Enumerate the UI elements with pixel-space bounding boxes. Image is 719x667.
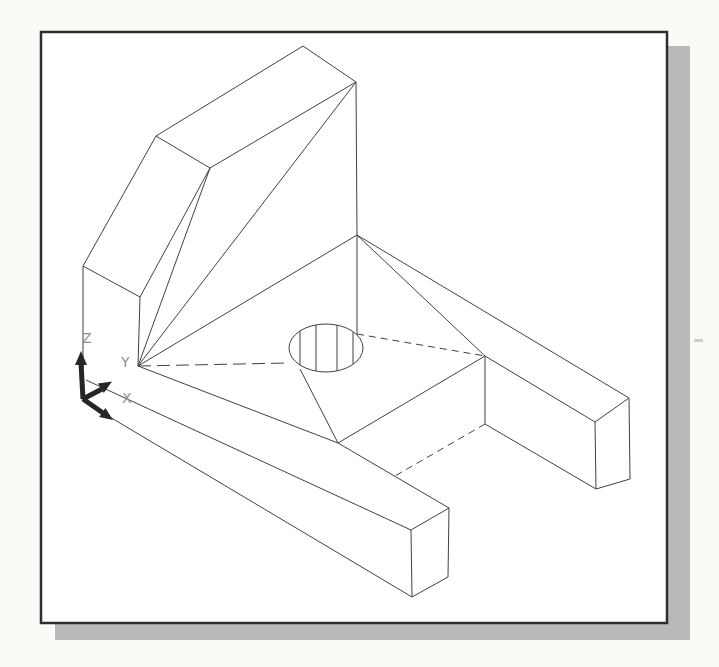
- axis-label-y: Y: [120, 354, 130, 370]
- axis-label-z: Z: [82, 330, 92, 346]
- drawing-frame: [41, 32, 667, 623]
- cad-figure-page: Z Y X: [0, 0, 719, 667]
- axis-label-x: X: [122, 390, 132, 406]
- z-axis-arrow-shaft: [81, 363, 83, 399]
- scan-artifact-mark: [694, 339, 703, 342]
- artifact-dash: [694, 339, 703, 342]
- frame-border: [41, 32, 667, 623]
- cad-wireframe-figure: Z Y X: [0, 0, 719, 667]
- shadow-rect: [668, 46, 690, 640]
- shadow-rect: [55, 624, 690, 640]
